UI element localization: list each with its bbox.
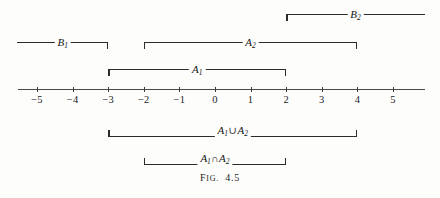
- interval-endpoint-right: [356, 42, 357, 49]
- axis-tick-label: 5: [382, 94, 404, 105]
- interval-a1-intersect-a2: A1∩A2: [144, 151, 286, 165]
- interval-endpoint-right: [107, 42, 108, 49]
- interval-endpoint-left: [144, 42, 145, 49]
- axis-tick-label: 3: [311, 94, 333, 105]
- axis-tick: [251, 87, 252, 92]
- interval-endpoint-right: [285, 158, 286, 165]
- axis-tick: [357, 87, 358, 92]
- axis-tick: [144, 87, 145, 92]
- interval-a1: A1: [108, 69, 286, 83]
- interval-label: A1∪A2: [215, 124, 251, 138]
- interval-endpoint-left: [286, 14, 287, 21]
- interval-label: B2: [347, 8, 363, 22]
- interval-endpoint-left: [108, 130, 109, 137]
- interval-endpoint-left: [144, 158, 145, 165]
- axis-line: [18, 89, 425, 90]
- figure-caption: FIG. 4.5: [0, 172, 440, 183]
- axis-tick-label: −3: [97, 94, 119, 105]
- interval-a2: A2: [144, 42, 358, 56]
- axis-tick: [393, 87, 394, 92]
- axis-tick-label: 0: [204, 94, 226, 105]
- interval-b1: B1: [17, 42, 108, 56]
- axis-tick-label: 1: [240, 94, 262, 105]
- interval-b2: B2: [286, 14, 425, 28]
- axis-tick-label: −2: [133, 94, 155, 105]
- interval-label: A2: [242, 36, 258, 50]
- interval-label: A1: [189, 63, 205, 77]
- interval-endpoint-right: [285, 69, 286, 76]
- axis-tick-label: 4: [346, 94, 368, 105]
- axis-tick-label: −5: [26, 94, 48, 105]
- axis-tick: [108, 87, 109, 92]
- interval-endpoint-left: [108, 69, 109, 76]
- axis-tick: [286, 87, 287, 92]
- axis-tick: [37, 87, 38, 92]
- figure-4-5: −5−4−3−2−1012345 B2B1A2A1A1∪A2A1∩A2 FIG.…: [0, 0, 440, 198]
- axis-tick: [73, 87, 74, 92]
- interval-endpoint-right: [356, 130, 357, 137]
- interval-a1-union-a2: A1∪A2: [108, 123, 357, 137]
- interval-label: B1: [55, 36, 71, 50]
- axis-tick: [215, 87, 216, 92]
- axis-tick-label: 2: [275, 94, 297, 105]
- axis-tick-label: −1: [168, 94, 190, 105]
- interval-label: A1∩A2: [197, 152, 232, 166]
- axis-tick-label: −4: [62, 94, 84, 105]
- axis-tick: [322, 87, 323, 92]
- axis-tick: [179, 87, 180, 92]
